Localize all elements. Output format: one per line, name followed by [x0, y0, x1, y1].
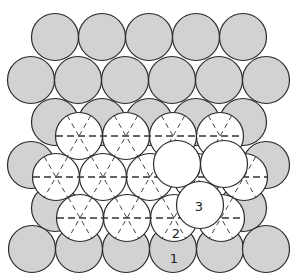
layer-1-sphere: [243, 226, 290, 273]
layer-1-sphere: [79, 14, 126, 61]
packing-svg: 3 2 1: [0, 0, 304, 277]
layer-1-sphere: [126, 14, 173, 61]
layer-1-sphere: [173, 14, 220, 61]
layer-1-sphere: [102, 57, 149, 104]
layer-1-sphere: [220, 14, 267, 61]
sphere-packing-diagram: 3 2 1: [0, 0, 304, 277]
label-layer-3: 3: [195, 199, 203, 214]
layer-1-sphere: [243, 57, 290, 104]
layer-3-sphere: [201, 141, 248, 188]
layer-1-sphere: [149, 57, 196, 104]
layer-1-sphere: [55, 57, 102, 104]
label-layer-2: 2: [172, 226, 180, 241]
layer-1-sphere: [32, 14, 79, 61]
layer-1-sphere: [9, 226, 56, 273]
layer-1-sphere: [8, 57, 55, 104]
layer-3-sphere: [154, 141, 201, 188]
layer-1-sphere: [196, 57, 243, 104]
label-layer-1: 1: [170, 251, 178, 266]
